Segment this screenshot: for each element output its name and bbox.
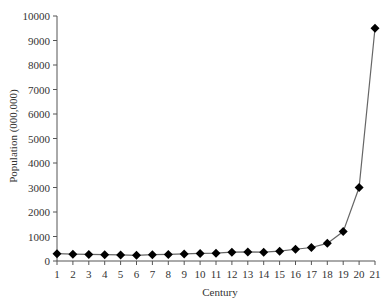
y-tick-label: 7000 [28, 84, 51, 96]
x-tick-label: 7 [150, 268, 156, 280]
x-tick-label: 18 [322, 268, 334, 280]
x-tick-label: 2 [70, 268, 76, 280]
y-tick-label: 5000 [28, 133, 51, 145]
data-point-diamond [100, 250, 109, 259]
data-point-diamond [180, 249, 189, 258]
data-point-diamond [371, 24, 380, 33]
data-point-diamond [243, 247, 252, 256]
y-tick-label: 4000 [28, 157, 51, 169]
data-point-diamond [196, 249, 205, 258]
x-tick-label: 5 [118, 268, 124, 280]
data-point-diamond [148, 250, 157, 259]
x-tick-label: 16 [290, 268, 302, 280]
data-point-diamond [259, 248, 268, 257]
x-tick-label: 17 [306, 268, 318, 280]
y-axis: 0100020003000400050006000700080009000100… [23, 10, 58, 267]
x-tick-label: 11 [211, 268, 222, 280]
y-tick-label: 8000 [28, 59, 51, 71]
y-tick-label: 2000 [28, 206, 51, 218]
x-tick-label: 3 [86, 268, 92, 280]
data-series [53, 24, 380, 260]
y-tick-label: 6000 [28, 108, 51, 120]
data-point-diamond [132, 251, 141, 260]
x-axis: 123456789101112131415161718192021 [54, 261, 380, 280]
x-tick-label: 15 [274, 268, 286, 280]
y-tick-label: 0 [45, 255, 51, 267]
data-point-diamond [307, 243, 316, 252]
x-tick-label: 19 [338, 268, 350, 280]
y-axis-title: Population (000,000) [7, 76, 19, 196]
x-tick-label: 4 [102, 268, 108, 280]
y-tick-label: 9000 [28, 35, 51, 47]
data-point-diamond [323, 239, 332, 248]
data-point-diamond [339, 227, 348, 236]
data-point-diamond [164, 250, 173, 259]
x-axis-title: Century [190, 286, 250, 298]
x-tick-label: 6 [134, 268, 140, 280]
x-tick-label: 1 [54, 268, 60, 280]
data-point-diamond [84, 250, 93, 259]
x-tick-label: 10 [195, 268, 207, 280]
data-point-diamond [53, 249, 62, 258]
x-tick-label: 21 [370, 268, 381, 280]
x-tick-label: 8 [166, 268, 172, 280]
x-tick-label: 9 [181, 268, 187, 280]
population-line-chart: 0100020003000400050006000700080009000100… [0, 0, 388, 307]
data-point-diamond [68, 250, 77, 259]
x-tick-label: 13 [242, 268, 254, 280]
x-tick-label: 14 [258, 268, 270, 280]
data-point-diamond [227, 248, 236, 257]
data-point-diamond [116, 250, 125, 259]
y-tick-label: 3000 [28, 182, 51, 194]
data-point-diamond [275, 247, 284, 256]
y-tick-label: 10000 [23, 10, 51, 22]
x-tick-label: 20 [354, 268, 366, 280]
data-point-diamond [212, 249, 221, 258]
data-point-diamond [355, 183, 364, 192]
data-point-diamond [291, 245, 300, 254]
x-tick-label: 12 [226, 268, 237, 280]
y-tick-label: 1000 [28, 231, 51, 243]
